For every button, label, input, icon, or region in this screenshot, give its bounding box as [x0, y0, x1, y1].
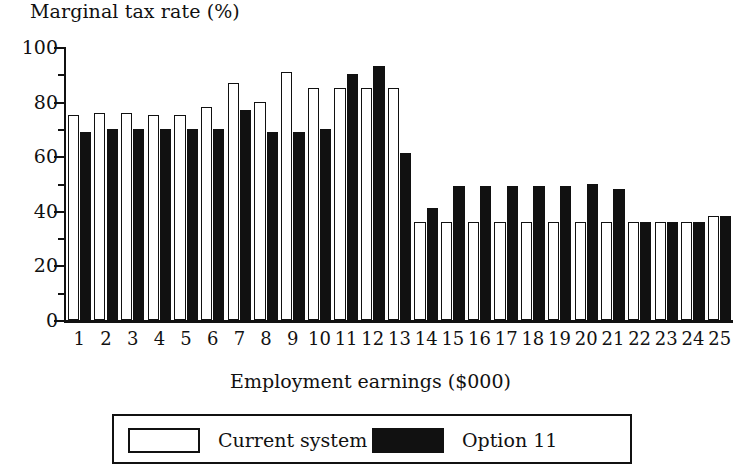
bar-group: [626, 47, 653, 320]
bar-group: [93, 47, 120, 320]
y-axis-tick-label: 100: [6, 38, 58, 57]
chart-figure: Marginal tax rate (%) 100806040200 12345…: [0, 0, 741, 468]
bar-group: [440, 47, 467, 320]
bar-group: [199, 47, 226, 320]
bar-option-11: [160, 129, 171, 320]
bar-current-system: [334, 88, 345, 320]
bar-current-system: [121, 113, 132, 320]
bar-option-11: [560, 186, 571, 320]
bar-current-system: [681, 222, 692, 320]
chart-title: Marginal tax rate (%): [30, 0, 240, 22]
legend-label-option-11: Option 11: [462, 429, 557, 451]
y-axis-major-tick: [54, 156, 65, 158]
bar-option-11: [373, 66, 384, 320]
y-axis-major-tick: [54, 265, 65, 267]
bar-group: [413, 47, 440, 320]
bar-option-11: [267, 132, 278, 320]
y-axis-major-tick: [54, 47, 65, 49]
legend-swatch-option-11: [372, 428, 444, 453]
y-axis-tick-label: 0: [6, 311, 58, 330]
x-axis-tick-label: 6: [199, 330, 226, 348]
x-axis-title: Employment earnings ($000): [0, 370, 741, 392]
bar-current-system: [441, 222, 452, 320]
y-axis-major-tick: [54, 211, 65, 213]
bar-group: [466, 47, 493, 320]
bar-current-system: [601, 222, 612, 320]
bar-option-11: [720, 216, 731, 320]
bar-option-11: [507, 186, 518, 320]
y-axis-tick-label: 20: [6, 256, 58, 275]
bar-option-11: [427, 208, 438, 320]
bar-current-system: [414, 222, 425, 320]
bar-group: [573, 47, 600, 320]
bar-current-system: [388, 88, 399, 320]
bar-group: [706, 47, 733, 320]
y-axis-major-tick: [54, 102, 65, 104]
bar-group: [226, 47, 253, 320]
y-axis-tick-label: 60: [6, 147, 58, 166]
x-axis-tick-label: 23: [653, 330, 680, 348]
bar-option-11: [133, 129, 144, 320]
bar-current-system: [494, 222, 505, 320]
bar-option-11: [453, 186, 464, 320]
bar-current-system: [708, 216, 719, 320]
bar-option-11: [693, 222, 704, 320]
y-axis-minor-tick: [58, 74, 65, 76]
bar-current-system: [254, 102, 265, 320]
legend-entry-option-11: Option 11: [372, 427, 557, 453]
bar-option-11: [320, 129, 331, 320]
bar-group: [306, 47, 333, 320]
x-axis-tick-label: 19: [546, 330, 573, 348]
plot-area: [66, 47, 733, 320]
y-axis-minor-tick: [58, 184, 65, 186]
x-axis-tick-label: 10: [306, 330, 333, 348]
bar-option-11: [667, 222, 678, 320]
x-axis-tick-label: 7: [226, 330, 253, 348]
x-axis-tick-label: 20: [573, 330, 600, 348]
bar-option-11: [293, 132, 304, 320]
x-axis-tick-label: 8: [253, 330, 280, 348]
bar-option-11: [187, 129, 198, 320]
x-axis-tick-label: 11: [333, 330, 360, 348]
bar-option-11: [240, 110, 251, 320]
bar-current-system: [655, 222, 666, 320]
legend-entry-current-system: Current system: [128, 427, 367, 453]
bar-current-system: [521, 222, 532, 320]
y-axis-labels: 100806040200: [0, 47, 58, 327]
bar-current-system: [281, 72, 292, 320]
bar-group: [493, 47, 520, 320]
x-axis-tick-label: 3: [119, 330, 146, 348]
bar-current-system: [468, 222, 479, 320]
x-axis-tick-label: 2: [93, 330, 120, 348]
legend-label-current-system: Current system: [218, 429, 367, 451]
bar-option-11: [533, 186, 544, 320]
y-axis-major-tick: [54, 320, 65, 322]
bar-series-container: [66, 47, 733, 320]
bar-current-system: [148, 115, 159, 320]
bar-group: [333, 47, 360, 320]
bar-group: [279, 47, 306, 320]
x-axis-tick-label: 24: [680, 330, 707, 348]
x-axis-tick-label: 25: [706, 330, 733, 348]
bar-option-11: [347, 74, 358, 320]
bar-current-system: [228, 83, 239, 321]
bar-group: [173, 47, 200, 320]
bar-group: [359, 47, 386, 320]
bar-group: [653, 47, 680, 320]
bar-group: [680, 47, 707, 320]
bar-current-system: [201, 107, 212, 320]
chart-legend: Current system Option 11: [112, 414, 632, 464]
y-axis-minor-tick: [58, 129, 65, 131]
bar-group: [546, 47, 573, 320]
x-axis-tick-label: 13: [386, 330, 413, 348]
y-axis-minor-tick: [58, 293, 65, 295]
bar-option-11: [480, 186, 491, 320]
x-axis-tick-label: 12: [359, 330, 386, 348]
y-axis-tick-label: 80: [6, 93, 58, 112]
bar-group: [146, 47, 173, 320]
x-axis-tick-label: 17: [493, 330, 520, 348]
bar-current-system: [68, 115, 79, 320]
x-axis-tick-label: 14: [413, 330, 440, 348]
bar-current-system: [174, 115, 185, 320]
x-axis-tick-label: 9: [279, 330, 306, 348]
